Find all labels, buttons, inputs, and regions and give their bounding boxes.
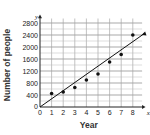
- x-tick-label: 4: [84, 109, 88, 116]
- x-tick-label: 0: [38, 109, 42, 116]
- data-point: [108, 60, 112, 64]
- data-point: [131, 33, 135, 37]
- x-tick-label: 5: [96, 109, 100, 116]
- data-point: [96, 72, 100, 76]
- trend-arrow-icon: [142, 31, 148, 37]
- y-axis-letter: y: [34, 13, 39, 21]
- data-point: [73, 86, 77, 90]
- x-tick-label: 2: [61, 109, 65, 116]
- x-tick-label: 7: [119, 109, 123, 116]
- x-tick-label: 1: [50, 109, 54, 116]
- y-axis-label: Number of people: [2, 29, 12, 102]
- y-tick-label: 800: [26, 80, 38, 87]
- data-point: [61, 90, 65, 94]
- y-tick-label: 2000: [22, 44, 38, 51]
- y-tick-label: 2400: [22, 32, 38, 39]
- x-tick-label: 3: [73, 109, 77, 116]
- y-tick-label: 1600: [22, 56, 38, 63]
- x-axis-letter: x: [146, 109, 150, 117]
- trend-line: [40, 34, 144, 108]
- y-tick-label: 0: [34, 103, 38, 110]
- y-axis-arrow-icon: [38, 15, 42, 19]
- y-tick-label: 1200: [22, 68, 38, 75]
- x-tick-label: 8: [131, 109, 135, 116]
- x-axis-arrow-icon: [142, 105, 145, 109]
- data-point: [119, 53, 123, 57]
- x-axis-label: Year: [80, 120, 99, 130]
- scatter-chart: 012345678400800120016002000240028000xyYe…: [0, 0, 150, 135]
- data-point: [50, 92, 54, 96]
- x-tick-label: 6: [108, 109, 112, 116]
- data-point: [85, 78, 89, 82]
- y-tick-label: 400: [26, 92, 38, 99]
